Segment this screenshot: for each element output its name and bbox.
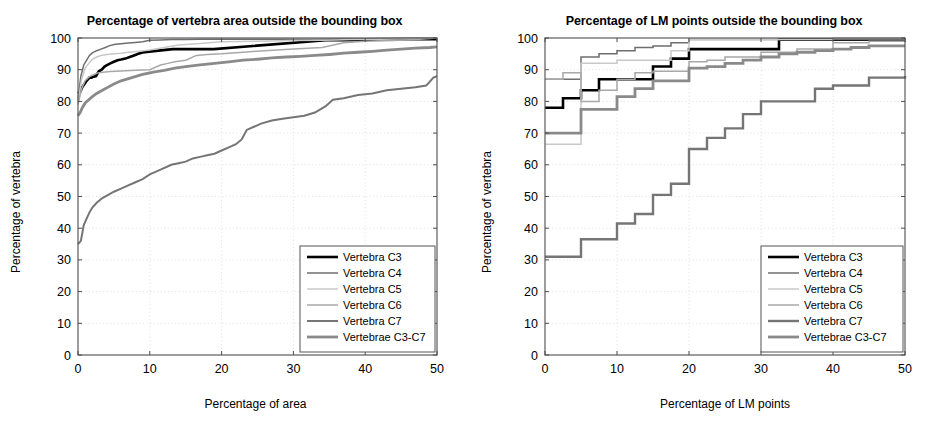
y-tick-label: 10	[524, 317, 538, 331]
plot-svg-area: 010203040500102030405060708090100Vertebr…	[0, 0, 471, 423]
x-tick-label: 40	[358, 362, 372, 376]
plot-area-area: 010203040500102030405060708090100Vertebr…	[0, 0, 471, 423]
x-tick-label: 30	[754, 362, 768, 376]
series-line-vertebra-c3	[78, 39, 437, 93]
y-tick-label: 50	[524, 190, 538, 204]
plot-svg-lm: 010203040500102030405060708090100Vertebr…	[471, 0, 943, 423]
legend-label: Vertebra C5	[343, 283, 402, 295]
legend[interactable]: Vertebra C3Vertebra C4Vertebra C5Vertebr…	[300, 246, 435, 352]
y-tick-label: 30	[57, 253, 71, 267]
x-tick-label: 0	[75, 362, 82, 376]
y-tick-label: 20	[57, 285, 71, 299]
y-tick-label: 0	[64, 349, 71, 363]
y-tick-label: 30	[524, 253, 538, 267]
legend-label: Vertebra C6	[343, 299, 402, 311]
x-tick-label: 30	[286, 362, 300, 376]
y-tick-label: 40	[524, 222, 538, 236]
legend[interactable]: Vertebra C3Vertebra C4Vertebra C5Vertebr…	[761, 246, 903, 352]
y-tick-label: 40	[57, 222, 71, 236]
y-tick-label: 90	[57, 63, 71, 77]
chart-panel-area: Percentage of vertebra area outside the …	[0, 0, 471, 423]
y-tick-label: 0	[531, 349, 538, 363]
y-tick-label: 10	[57, 317, 71, 331]
y-tick-label: 80	[57, 95, 71, 109]
y-tick-label: 50	[57, 190, 71, 204]
legend-label: Vertebra C7	[343, 315, 402, 327]
x-tick-label: 10	[143, 362, 157, 376]
y-tick-label: 100	[50, 32, 71, 46]
x-tick-label: 50	[898, 362, 912, 376]
x-tick-label: 0	[542, 362, 549, 376]
y-tick-label: 70	[57, 127, 71, 141]
chart-panel-lm: Percentage of LM points outside the boun…	[471, 0, 943, 423]
plot-area-lm: 010203040500102030405060708090100Vertebr…	[471, 0, 943, 423]
legend-label: Vertebra C7	[804, 315, 863, 327]
series-line-vertebra-c7	[545, 76, 905, 257]
y-tick-label: 20	[524, 285, 538, 299]
legend-label: Vertebra C4	[343, 267, 402, 279]
series-line-vertebra-c7	[78, 76, 437, 244]
y-tick-label: 100	[517, 32, 538, 46]
x-tick-label: 20	[682, 362, 696, 376]
y-tick-label: 60	[57, 158, 71, 172]
figure-container: Percentage of vertebra area outside the …	[0, 0, 943, 423]
y-tick-label: 60	[524, 158, 538, 172]
legend-label: Vertebrae C3-C7	[804, 331, 887, 343]
legend-label: Vertebra C4	[804, 267, 863, 279]
legend-label: Vertebra C6	[804, 299, 863, 311]
legend-label: Vertebrae C3-C7	[343, 331, 426, 343]
legend-label: Vertebra C3	[804, 251, 863, 263]
x-tick-label: 20	[215, 362, 229, 376]
series-line-vertebra-c6	[78, 38, 437, 105]
x-tick-label: 50	[430, 362, 444, 376]
legend-label: Vertebra C3	[343, 251, 402, 263]
y-tick-label: 80	[524, 95, 538, 109]
y-tick-label: 90	[524, 63, 538, 77]
x-tick-label: 10	[610, 362, 624, 376]
x-tick-label: 40	[826, 362, 840, 376]
legend-label: Vertebra C5	[804, 283, 863, 295]
y-tick-label: 70	[524, 127, 538, 141]
